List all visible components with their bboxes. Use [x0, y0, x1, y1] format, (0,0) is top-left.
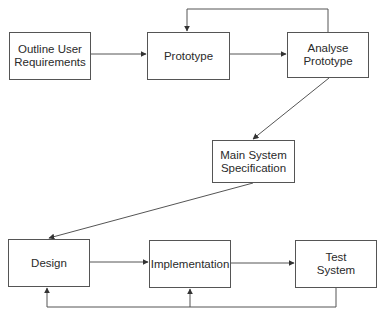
- arrow-mainspec-to-design: [49, 183, 253, 238]
- node-label: Test System: [317, 251, 355, 277]
- node-label: Prototype: [164, 50, 213, 63]
- node-label: Main System Specification: [220, 149, 286, 175]
- node-label: Implementation: [151, 258, 230, 271]
- arrow-analyse-to-mainspec: [253, 78, 329, 139]
- arrow-analyse-to-prototype-loop: [187, 9, 328, 32]
- node-label: Outline User Requirements: [14, 43, 86, 69]
- feedback-line-bottom: [47, 288, 336, 307]
- node-test-system: Test System: [295, 240, 377, 288]
- node-analyse-prototype: Analyse Prototype: [287, 32, 369, 78]
- node-label: Design: [31, 257, 67, 270]
- node-main-system-specification: Main System Specification: [212, 140, 295, 183]
- node-implementation: Implementation: [149, 240, 231, 288]
- node-label: Analyse Prototype: [303, 42, 352, 68]
- node-prototype: Prototype: [147, 32, 230, 80]
- node-design: Design: [8, 239, 90, 287]
- node-outline-user-requirements: Outline User Requirements: [9, 32, 91, 80]
